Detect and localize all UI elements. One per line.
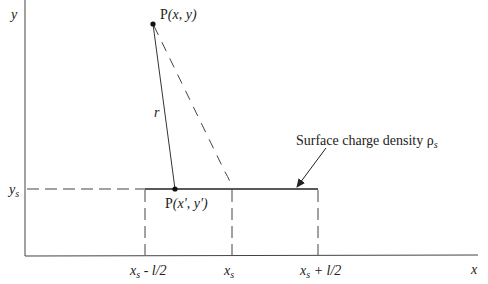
- source-point-label: P(x', y'): [165, 196, 208, 212]
- diagram-svg: y x ys P(x, y) P(x', y') r Surface charg…: [0, 0, 488, 284]
- tick-label-center: xs: [223, 263, 234, 280]
- field-point-dot: [150, 21, 155, 26]
- y-axis-label: y: [9, 7, 18, 22]
- ys-label: ys: [7, 182, 19, 199]
- annotation-arrow: [297, 148, 326, 187]
- x-axis-label: x: [470, 262, 478, 277]
- diagram-canvas: y x ys P(x, y) P(x', y') r Surface charg…: [0, 0, 488, 284]
- surface-charge-annotation: Surface charge density ρs: [296, 133, 438, 150]
- center-distance-line: [154, 26, 232, 189]
- x-axis: [25, 255, 478, 256]
- distance-label: r: [154, 105, 160, 120]
- tick-label-right: xs + l/2: [299, 263, 341, 280]
- field-point-label: P(x, y): [160, 7, 197, 23]
- tick-label-left: xs - l/2: [129, 263, 167, 280]
- source-point-dot: [172, 186, 177, 191]
